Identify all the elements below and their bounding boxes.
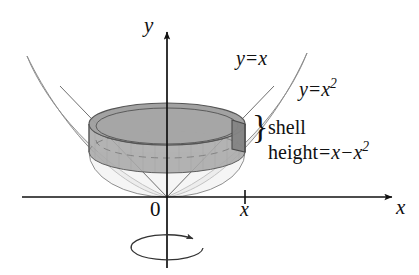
x-tick-label: x	[240, 198, 249, 220]
x-axis-label: x	[396, 196, 405, 220]
y-axis-label: y	[144, 14, 153, 38]
parabola-equation-lhs: y	[299, 78, 308, 100]
height-term-one: x	[331, 141, 340, 163]
height-minus: −	[340, 141, 353, 163]
shell-right-face	[232, 120, 245, 152]
line-equation-lhs: y	[236, 47, 245, 69]
height-word: height	[268, 141, 318, 163]
height-term-two: x	[353, 141, 362, 163]
line-equation-equals: =	[245, 47, 258, 69]
shell-height-brace: }	[252, 110, 268, 144]
height-term-two-exponent: 2	[362, 139, 369, 154]
parabola-equation-rhs: x	[321, 78, 330, 100]
shell-height-expression: height=x−x2	[268, 139, 369, 163]
shell-height-label: shell height=x−x2	[268, 116, 369, 163]
parabola-equation-exponent: 2	[330, 76, 337, 91]
line-equation-label: y=x	[236, 47, 267, 69]
height-equals: =	[318, 141, 331, 163]
shell-word: shell	[268, 116, 369, 138]
shell-method-figure: y x 0 x y=x y=x2 } shell height=x−x2	[0, 0, 419, 275]
parabola-equation-label: y=x2	[299, 76, 337, 100]
parabola-equation-equals: =	[308, 78, 321, 100]
origin-label: 0	[150, 198, 161, 222]
line-equation-rhs: x	[258, 47, 267, 69]
